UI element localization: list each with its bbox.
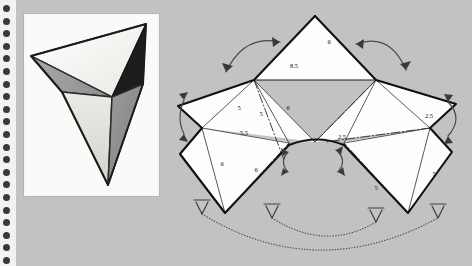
net-dotted-arrows [202, 214, 438, 250]
binding-hole [3, 232, 10, 239]
label-left-lower-edge: 5.5 [240, 129, 248, 136]
binding-hole [3, 181, 10, 188]
binding-hole [3, 81, 10, 88]
binding-hole [3, 194, 10, 201]
binding-hole [3, 118, 10, 125]
label-right-upper-edge: 2.5 [425, 112, 433, 119]
binding-hole [3, 106, 10, 113]
solid-photograph [24, 14, 159, 196]
binding-hole [3, 68, 10, 75]
binding-hole [3, 156, 10, 163]
solid-photograph-graphic [24, 14, 159, 196]
net-diagram-graphic: 6 8.5 5 5 6 5.5 6 6 2.5 2.5 5 5 [176, 0, 472, 266]
bottom-inner-dotted-arrow [272, 218, 376, 236]
binding-hole [3, 43, 10, 50]
label-middle-crease: 6 [286, 104, 290, 111]
binding-hole [3, 18, 10, 25]
binding-hole [3, 169, 10, 176]
label-upper-left-crease: 5 [259, 110, 262, 117]
binding-hole [3, 244, 10, 251]
binding-hole [3, 131, 10, 138]
unfolding-net-diagram: 6 8.5 5 5 6 5.5 6 6 2.5 2.5 5 5 [176, 0, 472, 266]
bottom-outer-dotted-arrow [202, 214, 438, 250]
notebook-page: 6 8.5 5 5 6 5.5 6 6 2.5 2.5 5 5 [0, 0, 472, 266]
binding-hole [3, 93, 10, 100]
binding-hole [3, 144, 10, 151]
binding-hole [3, 5, 10, 12]
label-right-outer-face: 5 [432, 170, 435, 177]
binding-hole [3, 257, 10, 264]
spiral-binding-strip [0, 0, 16, 266]
label-right-lower-face: 5 [374, 184, 377, 191]
net-face-top [254, 16, 376, 80]
label-upper-left-face: 5 [237, 104, 240, 111]
net-face-lower-right [344, 128, 452, 213]
binding-hole [3, 219, 10, 226]
label-center-bottom-edge: 2.5 [338, 133, 346, 140]
label-top-base-edge: 8.5 [290, 62, 298, 69]
binding-hole [3, 207, 10, 214]
binding-hole [3, 55, 10, 62]
binding-hole [3, 30, 10, 37]
